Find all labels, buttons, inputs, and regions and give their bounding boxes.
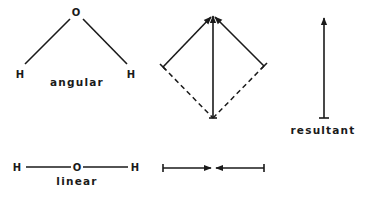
parallelogram-dashed-left [163, 67, 213, 118]
linear-opposing-vectors [163, 164, 264, 172]
linear-hydrogen-right: H [131, 162, 139, 173]
resultant-caption: resultant [290, 124, 355, 136]
angular-molecule: O H H angular [16, 7, 135, 88]
angular-bond-right [83, 19, 127, 64]
molecular-dipole-diagram: O H H angular resultant H O H linear [0, 0, 366, 202]
angular-vector-parallelogram [160, 16, 267, 118]
linear-oxygen-atom: O [73, 162, 82, 173]
angular-hydrogen-left: H [16, 69, 24, 80]
linear-molecule: H O H linear [13, 162, 139, 187]
angular-bond-left [25, 19, 70, 64]
angular-caption: angular [50, 76, 104, 88]
linear-hydrogen-left: H [13, 162, 21, 173]
dipole-vector-left [163, 17, 211, 67]
linear-caption: linear [56, 175, 97, 187]
angular-oxygen-atom: O [72, 7, 81, 18]
dipole-vector-right [215, 17, 264, 66]
angular-hydrogen-right: H [127, 69, 135, 80]
resultant-vector-group: resultant [290, 18, 355, 136]
parallelogram-dashed-right [213, 66, 264, 118]
